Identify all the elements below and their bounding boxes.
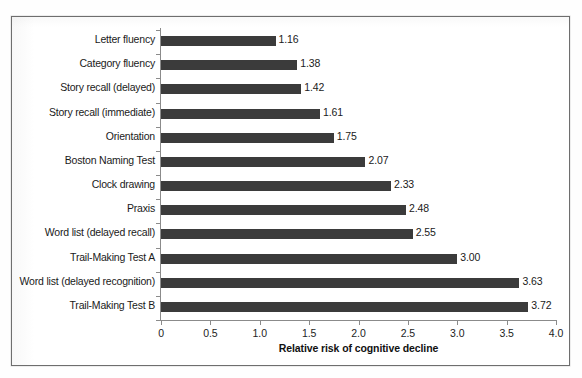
category-label-wrap: Boston Naming Test [5, 151, 155, 173]
bar-value-label: 3.00 [460, 251, 480, 263]
x-tick [408, 320, 409, 325]
x-tick-label: 3.0 [450, 327, 464, 339]
category-label: Boston Naming Test [5, 154, 155, 166]
category-label: Word list (delayed recall) [5, 226, 155, 238]
x-tick [507, 320, 508, 325]
bar-value-label: 1.16 [279, 33, 299, 45]
category-label: Story recall (delayed) [5, 81, 155, 93]
bar[interactable] [161, 278, 519, 288]
bar[interactable] [161, 254, 457, 264]
x-tick-label: 2.5 [401, 327, 415, 339]
bar-value-label: 1.42 [304, 81, 324, 93]
x-tick [359, 320, 360, 325]
category-label-wrap: Clock drawing [5, 175, 155, 197]
category-label-wrap: Category fluency [5, 54, 155, 76]
x-tick [457, 320, 458, 325]
plot-area: 00.51.01.52.02.53.03.54.0 Letter fluency… [161, 30, 556, 320]
bar-value-label: 1.38 [300, 57, 320, 69]
category-label-wrap: Praxis [5, 199, 155, 221]
bar-row: Story recall (immediate)1.61 [161, 103, 556, 125]
bar-value-label: 1.75 [337, 130, 357, 142]
category-label: Orientation [5, 130, 155, 142]
bar-value-label: 2.33 [394, 178, 414, 190]
bar-value-label: 1.61 [323, 106, 343, 118]
x-tick [161, 320, 162, 325]
x-axis-title: Relative risk of cognitive decline [161, 342, 556, 354]
bar[interactable] [161, 84, 301, 94]
bar[interactable] [161, 205, 406, 215]
category-label: Letter fluency [5, 33, 155, 45]
bar-value-label: 2.07 [368, 154, 388, 166]
bar-row: Orientation1.75 [161, 127, 556, 149]
bar-value-label: 3.72 [531, 299, 551, 311]
x-tick [260, 320, 261, 325]
bar[interactable] [161, 229, 413, 239]
figure: 00.51.01.52.02.53.03.54.0 Letter fluency… [0, 0, 582, 378]
x-tick-label: 2.0 [351, 327, 365, 339]
category-label: Category fluency [5, 57, 155, 69]
x-tick-label: 4.0 [549, 327, 563, 339]
category-label-wrap: Orientation [5, 127, 155, 149]
category-label-wrap: Letter fluency [5, 30, 155, 52]
bar-value-label: 2.48 [409, 202, 429, 214]
bar-row: Praxis2.48 [161, 199, 556, 221]
category-label: Word list (delayed recognition) [5, 275, 155, 287]
category-label-wrap: Word list (delayed recall) [5, 223, 155, 245]
bar-row: Clock drawing2.33 [161, 175, 556, 197]
category-label: Clock drawing [5, 178, 155, 190]
bar-value-label: 3.63 [522, 275, 542, 287]
bar-row: Trail-Making Test B3.72 [161, 296, 556, 318]
bar[interactable] [161, 302, 528, 312]
category-label-wrap: Story recall (immediate) [5, 103, 155, 125]
category-label-wrap: Story recall (delayed) [5, 78, 155, 100]
bar[interactable] [161, 36, 276, 46]
category-label-wrap: Trail-Making Test A [5, 248, 155, 270]
x-tick [309, 320, 310, 325]
category-label-wrap: Trail-Making Test B [5, 296, 155, 318]
bar-row: Trail-Making Test A3.00 [161, 248, 556, 270]
bar-row: Category fluency1.38 [161, 54, 556, 76]
bar[interactable] [161, 157, 365, 167]
category-label: Trail-Making Test B [5, 299, 155, 311]
bar[interactable] [161, 60, 297, 70]
bar-row: Story recall (delayed)1.42 [161, 78, 556, 100]
category-label-wrap: Word list (delayed recognition) [5, 272, 155, 294]
x-tick-label: 0 [158, 327, 164, 339]
bar-row: Letter fluency1.16 [161, 30, 556, 52]
bar-row: Word list (delayed recognition)3.63 [161, 272, 556, 294]
x-tick-label: 3.5 [499, 327, 513, 339]
x-tick-label: 1.0 [253, 327, 267, 339]
bar-row: Word list (delayed recall)2.55 [161, 223, 556, 245]
bar-value-label: 2.55 [416, 226, 436, 238]
x-tick-label: 0.5 [203, 327, 217, 339]
x-tick-label: 1.5 [302, 327, 316, 339]
category-label: Story recall (immediate) [5, 106, 155, 118]
category-label: Praxis [5, 202, 155, 214]
bar-row: Boston Naming Test2.07 [161, 151, 556, 173]
category-label: Trail-Making Test A [5, 251, 155, 263]
bar[interactable] [161, 133, 334, 143]
bar[interactable] [161, 109, 320, 119]
bar[interactable] [161, 181, 391, 191]
x-tick [556, 320, 557, 325]
x-tick [210, 320, 211, 325]
